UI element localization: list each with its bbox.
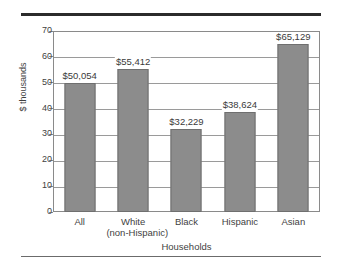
bar-value-label: $55,412 bbox=[115, 57, 151, 67]
bar-value-label: $38,624 bbox=[222, 100, 258, 110]
y-tick-label: 30 bbox=[28, 129, 52, 138]
bar[interactable] bbox=[64, 83, 95, 212]
x-tick-label: Asian bbox=[267, 216, 320, 227]
y-tick-label: 40 bbox=[28, 104, 52, 113]
bar-slot: $65,129 bbox=[267, 31, 320, 212]
bar-slot: $55,412 bbox=[106, 31, 159, 212]
x-tick-label-line: White bbox=[106, 216, 159, 227]
x-tick-label: All bbox=[53, 216, 106, 227]
bar[interactable] bbox=[171, 129, 202, 212]
x-tick-label-line: (non-Hispanic) bbox=[106, 227, 159, 238]
bar-chart-figure: $ thousands $50,054$55,412$32,229$38,624… bbox=[0, 0, 342, 275]
y-axis-title: $ thousands bbox=[18, 32, 28, 142]
x-axis-title: Households bbox=[53, 241, 320, 252]
bar-slot: $38,624 bbox=[213, 31, 266, 212]
bar-slot: $32,229 bbox=[160, 31, 213, 212]
x-tick-label: Black bbox=[160, 216, 213, 227]
bar-value-label: $65,129 bbox=[275, 32, 311, 42]
y-tick-label: 70 bbox=[28, 26, 52, 35]
x-tick-label-line: Black bbox=[160, 216, 213, 227]
bar-series: $50,054$55,412$32,229$38,624$65,129 bbox=[53, 31, 320, 212]
x-tick-label: Hispanic bbox=[213, 216, 266, 227]
y-tick-label: 20 bbox=[28, 155, 52, 164]
x-tick-label-line: All bbox=[53, 216, 106, 227]
x-tick-label-line: Asian bbox=[267, 216, 320, 227]
bar-slot: $50,054 bbox=[53, 31, 106, 212]
bar[interactable] bbox=[118, 69, 149, 212]
bar-value-label: $32,229 bbox=[168, 117, 204, 127]
bar[interactable] bbox=[278, 44, 309, 212]
y-tick-label: 50 bbox=[28, 78, 52, 87]
y-tick-label: 0 bbox=[28, 207, 52, 216]
y-tick-label: 10 bbox=[28, 181, 52, 190]
x-tick-label: White(non-Hispanic) bbox=[106, 216, 159, 238]
y-tick-label: 60 bbox=[28, 52, 52, 61]
bar-value-label: $50,054 bbox=[62, 71, 98, 81]
x-tick-label-line: Hispanic bbox=[213, 216, 266, 227]
bottom-divider-rule bbox=[21, 256, 321, 257]
bar[interactable] bbox=[224, 112, 255, 212]
